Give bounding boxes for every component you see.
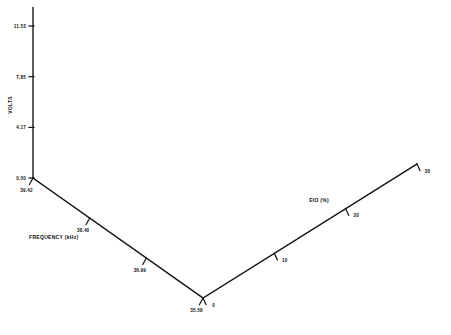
z-tick-label: 0.50 [16, 176, 26, 181]
y-axis-tick [417, 164, 420, 171]
surface-plot-figure: 11.537.854.170.50VOLTS39.4238.4036.9935.… [0, 0, 451, 335]
x-tick-label: 36.99 [134, 268, 147, 273]
x-axis-tick [30, 178, 34, 185]
y-axis-tick [203, 298, 206, 305]
x-axis-tick [143, 258, 147, 265]
y-tick-label: 0 [212, 303, 215, 308]
x-tick-label: 39.42 [20, 188, 33, 193]
x-tick-label: 35.58 [190, 308, 203, 313]
z-tick-label: 11.53 [14, 24, 26, 29]
plot-canvas: 11.537.854.170.50VOLTS39.4238.4036.9935.… [0, 0, 451, 335]
x-axis-tick [86, 218, 90, 225]
y-axis-tick [346, 209, 349, 216]
z-tick-label: 4.17 [16, 125, 26, 130]
y-axis-tick [274, 253, 277, 259]
z-axis-title: VOLTS [7, 96, 13, 114]
x-tick-label: 38.40 [77, 228, 90, 233]
y-tick-label: 30 [425, 169, 431, 174]
surface-mesh [33, 0, 417, 240]
y-tick-label: 10 [282, 258, 288, 263]
x-axis-title: FREQUENCY (kHz) [29, 234, 78, 240]
y-tick-label: 20 [353, 213, 359, 218]
y-axis-title: EIO (%) [309, 197, 329, 203]
z-tick-label: 7.85 [16, 75, 26, 80]
x-axis-tick [200, 298, 204, 305]
